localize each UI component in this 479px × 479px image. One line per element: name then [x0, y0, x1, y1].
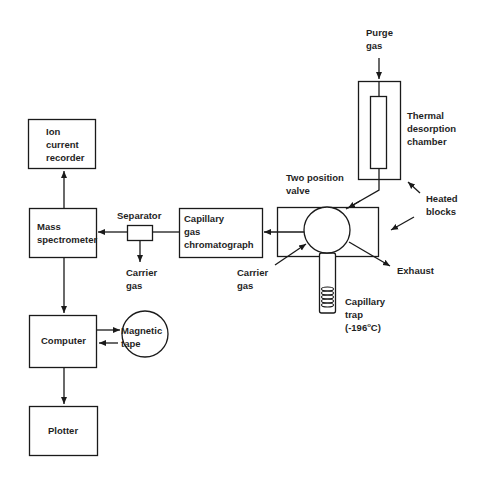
trap-temperature: (-196oC) — [345, 321, 385, 334]
magnetic-tape-label: Magnetic tape — [121, 324, 162, 350]
heated-blocks-label: Heated blocks — [426, 192, 458, 218]
computer-label: Computer — [41, 334, 86, 347]
mass-spectrometer-label: Mass spectrometer — [37, 220, 97, 246]
separator-label: Separator — [117, 209, 161, 222]
arrow-exhaust — [349, 242, 390, 266]
thermal-chamber-tube — [371, 97, 387, 169]
exhaust-label: Exhaust — [397, 264, 434, 277]
thermal-chamber-label: Thermal desorption chamber — [407, 109, 456, 148]
arrow-heated-blocks-valve — [391, 217, 414, 230]
two-position-valve-label: Two position valve — [286, 171, 344, 197]
line-chamber-to-valve — [346, 168, 379, 209]
ion-recorder-label: Ion current recorder — [46, 125, 85, 164]
capillary-trap-label: Capillary trap (-196oC) — [345, 295, 385, 334]
arrow-carrier-to-valve — [275, 244, 306, 265]
separator-box — [128, 226, 153, 241]
arrow-heated-blocks-chamber — [408, 182, 420, 193]
capillary-gc-label: Capillary gas chromatograph — [184, 212, 254, 251]
carrier-gas-valve-label: Carrier gas — [237, 266, 268, 292]
purge-gas-label: Purge gas — [366, 26, 393, 52]
carrier-gas-separator-label: Carrier gas — [126, 266, 157, 292]
plotter-label: Plotter — [48, 424, 78, 437]
valve-circle — [304, 207, 350, 253]
